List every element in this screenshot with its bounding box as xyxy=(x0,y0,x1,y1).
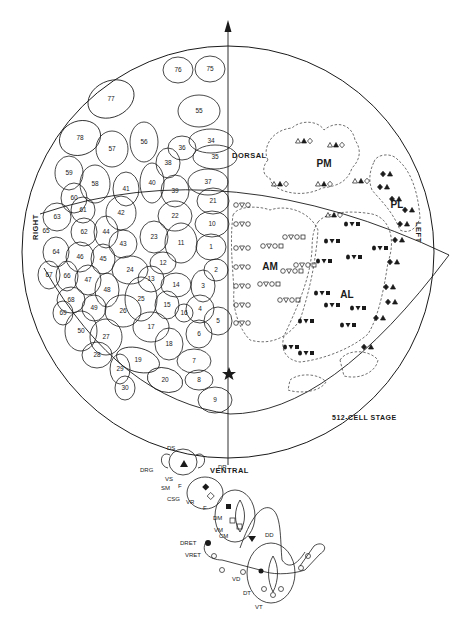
star-marker-icon xyxy=(222,367,236,380)
blastomere-number: 17 xyxy=(147,323,155,330)
blastomere-number: 25 xyxy=(137,295,145,302)
filled-down-triangle-icon xyxy=(330,239,335,244)
open-down-triangle-icon xyxy=(240,246,245,251)
filled-down-triangle-icon xyxy=(304,319,309,324)
open-down-triangle-icon xyxy=(300,263,305,268)
filled-down-triangle-icon xyxy=(346,323,351,328)
pl-region-outline xyxy=(370,155,420,232)
left-label: LEFT xyxy=(414,222,423,243)
filled-circle-icon xyxy=(298,318,302,323)
open-diamond-icon xyxy=(365,178,370,184)
filled-circle-icon xyxy=(344,221,348,226)
filled-up-triangle-icon xyxy=(302,139,307,144)
blastomere-number: 57 xyxy=(108,145,116,152)
filled-down-triangle-icon xyxy=(350,222,355,227)
blastomere-number: 68 xyxy=(67,296,75,303)
open-circle-icon xyxy=(246,284,251,289)
open-circle-icon xyxy=(278,298,283,303)
filled-square-icon xyxy=(336,239,340,243)
filled-square-icon xyxy=(384,246,388,250)
blastomere-number: 38 xyxy=(164,159,172,166)
blastomere-number: 12 xyxy=(159,259,167,266)
filled-circle-icon xyxy=(283,344,287,349)
filled-diamond-icon xyxy=(388,259,393,265)
blastomere-number: 49 xyxy=(90,304,98,311)
key-label: VS xyxy=(165,476,173,482)
filled-square-icon xyxy=(362,306,366,310)
blastomere-number: 13 xyxy=(147,275,155,282)
open-circle-icon xyxy=(246,222,251,227)
key-label: SM xyxy=(161,485,170,491)
open-square-icon xyxy=(279,244,283,248)
key-label: VD xyxy=(232,576,241,582)
filled-circle-icon xyxy=(340,322,344,327)
dorsal-label: DORSAL xyxy=(232,151,267,160)
key-label: DT xyxy=(243,590,251,596)
region-pm-label: PM xyxy=(317,158,332,169)
blastomere-number: 1 xyxy=(209,243,213,250)
filled-up-triangle-icon xyxy=(381,316,386,321)
filled-up-triangle-icon xyxy=(388,172,393,177)
blastomere-number: 2 xyxy=(214,266,218,273)
open-circle-icon xyxy=(234,265,239,270)
blastomere-number: 60 xyxy=(70,194,78,201)
open-circle-icon xyxy=(234,203,239,208)
pm-region-outline xyxy=(264,122,360,193)
open-down-triangle-icon xyxy=(240,203,245,208)
filled-circle-icon xyxy=(372,245,376,250)
filled-square-icon xyxy=(310,351,314,355)
key-label: DD xyxy=(265,532,274,538)
open-square-icon xyxy=(299,269,303,273)
stage-label: 512-CELL STAGE xyxy=(332,414,397,421)
filled-up-triangle-icon xyxy=(405,222,410,227)
blastomere-number: 36 xyxy=(178,144,186,151)
filled-square-icon xyxy=(336,303,340,307)
open-circle-icon xyxy=(261,244,266,249)
key-label: F xyxy=(178,483,182,489)
key-label: CSG xyxy=(167,496,180,502)
filled-diamond-icon xyxy=(374,315,379,321)
larva-key-labels: DSDRGVSSMCSGFDRVRFDMVMCMDDDRETVRETVDDTVT xyxy=(140,445,274,610)
blastomere-number: 66 xyxy=(63,272,71,279)
blastomere-number: 67 xyxy=(45,271,53,278)
blastomere-number: 34 xyxy=(207,137,215,144)
filled-diamond-icon xyxy=(386,299,391,305)
blastomere-number: 58 xyxy=(91,180,99,187)
filled-circle-icon xyxy=(324,238,328,243)
blastomere-number: 26 xyxy=(119,307,127,314)
filled-down-triangle-icon xyxy=(322,259,327,264)
key-label: DM xyxy=(213,515,222,521)
blastomere-number: 27 xyxy=(102,333,110,340)
open-square-icon xyxy=(301,235,305,239)
open-circle-icon xyxy=(258,282,263,287)
blastomere-number: 19 xyxy=(134,356,142,363)
open-up-triangle-icon xyxy=(328,143,333,148)
blastomere-number: 39 xyxy=(171,187,179,194)
key-label: DRET xyxy=(180,540,197,546)
filled-square-icon xyxy=(295,345,299,349)
open-down-triangle-icon xyxy=(267,244,272,249)
filled-square-icon xyxy=(328,259,332,263)
blastomere-number: 18 xyxy=(165,340,173,347)
filled-diamond-icon xyxy=(384,284,389,290)
blastomere-number: 61 xyxy=(79,206,87,213)
blastomere-number: 14 xyxy=(172,281,180,288)
open-down-triangle-icon xyxy=(284,298,289,303)
blastomere-number: 78 xyxy=(76,134,84,141)
blastomere-number: 69 xyxy=(59,309,67,316)
filled-square-icon xyxy=(352,323,356,327)
blastomere-number: 76 xyxy=(174,66,182,73)
key-label: DRG xyxy=(140,467,154,473)
blastomere-number: 77 xyxy=(107,95,115,102)
right-label: RIGHT xyxy=(31,214,40,240)
open-circle-icon xyxy=(306,263,311,268)
blastomere-number: 8 xyxy=(197,376,201,383)
blastomere-number-labels: 7675775578575636343538375958414039216061… xyxy=(42,65,220,403)
open-diamond-icon xyxy=(340,142,345,148)
blastomere-number: 43 xyxy=(119,240,127,247)
filled-circle-icon xyxy=(298,350,302,355)
blastomere-number: 40 xyxy=(148,179,156,186)
blastomere-number: 63 xyxy=(53,213,61,220)
filled-down-triangle-icon xyxy=(330,303,335,308)
open-square-icon xyxy=(276,282,280,286)
